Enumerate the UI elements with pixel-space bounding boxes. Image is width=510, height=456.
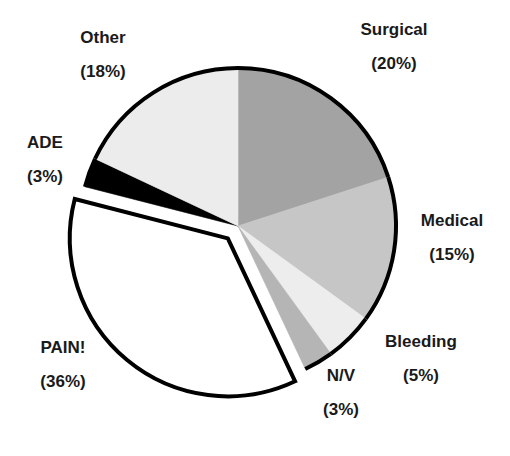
label-bleeding-name: Bleeding <box>376 325 466 359</box>
label-medical: Medical (15%) <box>410 204 494 272</box>
label-nv-pct: (3%) <box>316 393 366 427</box>
label-other-name: Other <box>68 21 138 55</box>
label-surgical-pct: (20%) <box>354 47 434 81</box>
label-nv: N/V (3%) <box>316 359 366 427</box>
label-medical-name: Medical <box>410 204 494 238</box>
label-pain-name: PAIN! <box>30 331 96 365</box>
label-bleeding: Bleeding (5%) <box>376 325 466 393</box>
label-bleeding-pct: (5%) <box>376 359 466 393</box>
label-medical-pct: (15%) <box>410 238 494 272</box>
label-nv-name: N/V <box>316 359 366 393</box>
label-surgical-name: Surgical <box>354 13 434 47</box>
label-surgical: Surgical (20%) <box>354 13 434 81</box>
label-ade: ADE (3%) <box>20 126 70 194</box>
label-pain: PAIN! (36%) <box>30 331 96 399</box>
label-other-pct: (18%) <box>68 55 138 89</box>
label-other: Other (18%) <box>68 21 138 89</box>
label-ade-pct: (3%) <box>20 160 70 194</box>
label-pain-pct: (36%) <box>30 365 96 399</box>
label-ade-name: ADE <box>20 126 70 160</box>
